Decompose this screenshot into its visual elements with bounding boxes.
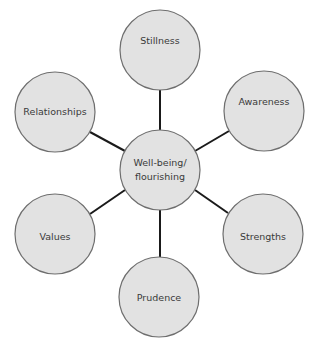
connector-awareness [195,131,229,151]
node-circle [120,10,200,90]
connector-strengths [195,190,228,213]
node-center-wellbeing: Well-being/ flourishing [120,130,200,210]
node-label: Values [39,231,70,242]
node-label: Stillness [140,35,179,46]
node-relationships: Relationships [15,72,95,152]
node-label: Prudence [137,292,182,303]
node-values: Values [15,194,95,274]
node-stillness: Stillness [120,10,200,90]
node-strengths: Strengths [223,194,303,274]
connector-relationships [90,132,125,151]
node-awareness: Awareness [224,71,304,151]
center-label-line-2: flourishing [135,171,185,182]
node-label: Strengths [240,231,286,242]
center-label-line-1: Well-being/ [133,157,187,168]
node-circle [224,71,304,151]
wellbeing-diagram: Stillness Awareness Strengths Prudence V… [0,0,317,349]
connector-values [90,190,125,214]
node-prudence: Prudence [119,257,199,337]
node-label: Awareness [238,96,289,107]
node-label: Relationships [23,106,86,117]
